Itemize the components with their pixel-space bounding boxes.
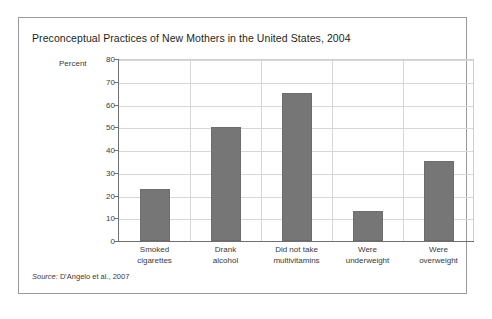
y-axis-tick-labels: 01020304050607080 [93,59,115,241]
y-axis-tick [114,82,118,83]
bar-did-not-take-multivitamins [282,93,312,241]
bar-were-overweight [424,161,454,241]
x-axis-category-label: Wereoverweight [403,245,474,266]
source-note: Source: D'Angelo et al., 2007 [32,272,129,281]
source-citation: D'Angelo et al., 2007 [58,272,129,281]
gridline-vertical [261,60,262,241]
gridline-vertical [190,60,191,241]
bar-were-underweight [353,211,383,241]
x-axis-label-line: Did not take [261,245,332,256]
y-axis-tick [114,150,118,151]
x-axis-category-label: Wereunderweight [332,245,403,266]
y-axis-tick [114,105,118,106]
x-axis-label-line: Drank [190,245,261,256]
x-axis-category-labels: SmokedcigarettesDrankalcoholDid not take… [119,245,474,275]
x-axis-line [118,241,474,242]
source-label: Source: [32,272,58,281]
x-axis-label-line: Were [332,245,403,256]
gridline-horizontal [119,83,473,84]
page-title: Preconceptual Practices of New Mothers i… [32,32,351,44]
x-axis-category-label: Did not takemultivitamins [261,245,332,266]
x-axis-label-line: underweight [332,256,403,267]
gridline-horizontal [119,60,473,61]
x-axis-label-line: Smoked [119,245,190,256]
y-axis-tick [114,241,118,242]
y-axis-tick [114,173,118,174]
x-axis-category-label: Drankalcohol [190,245,261,266]
bar-smoked-cigarettes [140,189,170,241]
y-axis-line [118,59,119,242]
x-axis-label-line: alcohol [190,256,261,267]
gridline-vertical [403,60,404,241]
x-axis-label-line: multivitamins [261,256,332,267]
x-axis-label-line: cigarettes [119,256,190,267]
y-axis-tick [114,196,118,197]
bar-drank-alcohol [211,127,241,241]
y-axis-tick [114,59,118,60]
figure-frame: Preconceptual Practices of New Mothers i… [18,17,467,294]
gridline-vertical [332,60,333,241]
y-axis-title: Percent [59,59,87,68]
plot-area [119,59,474,241]
x-axis-label-line: overweight [403,256,474,267]
y-axis-tick [114,127,118,128]
x-axis-category-label: Smokedcigarettes [119,245,190,266]
y-axis-tick [114,218,118,219]
x-axis-label-line: Were [403,245,474,256]
chart-plot-region: Percent 01020304050607080 Smokedcigarett… [19,59,468,265]
